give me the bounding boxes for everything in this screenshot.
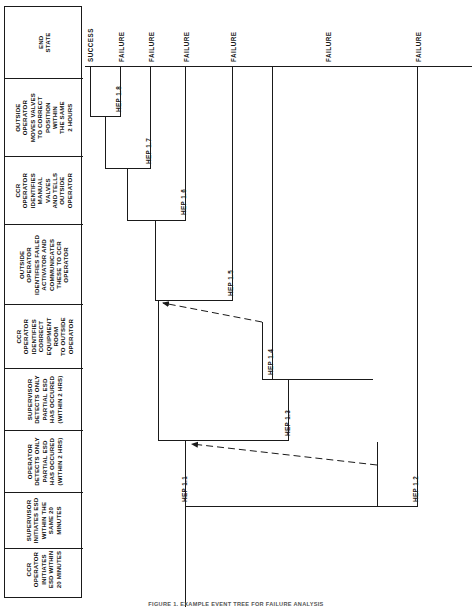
header-cell-outside-operator-identifies-failed-actuator: OUTSIDEOPERATORIDENTIFIES FAILEDACTIVATO… [5,225,83,305]
branch-node-hep-1-4-connector [262,379,273,380]
branch-node-hep-1-4 [262,379,373,380]
header-cell-outside-operator-moves-valves: OUTSIDEOPERATORMOVES VALVESTO CORRECTPOS… [5,79,83,157]
header-cell-ccr-operator-identifies-manual-valves: CCROPERATORIDENTIFIESMANUALVALVESAND TEL… [5,157,83,225]
header-column-strip: ENDSTATE OUTSIDEOPERATORMOVES VALVESTO C… [4,6,82,598]
header-cell-ccr-operator-identifies-correct-equipment-room-text: CCROPERATORIDENTIFIESCORRECTEQUIPMENTROO… [14,317,73,356]
branch-stem-hep-1-5 [158,300,159,440]
branch-node-hep-1-2 [377,506,418,507]
branch-line-hep-1-2-stub [377,442,378,506]
branch-stem-hep-1-7 [127,168,128,220]
header-cell-outside-operator-identifies-failed-actuator-text: OUTSIDEOPERATORIDENTIFIES FAILEDACTIVATO… [18,235,70,295]
branch-label-hep-1-8: HEP 1.8 [115,86,122,112]
end-state-label-failure-1: FAILURE [118,32,125,62]
transfer-arrow-hep-1-4-to-hep-1-5 [163,303,262,322]
branch-node-hep-1-3 [158,440,289,441]
header-cell-supervisor-initiates-esd-text: SUPERVISORINITIATES ESDWITHIN THESAME 20… [25,498,62,544]
header-column-strip-lower: CCROPERATORINITIATESESD WITHIN20 MINUTES [4,542,82,598]
branch-label-hep-1-2: HEP 1.2 [412,476,419,502]
header-cell-end-state-text: ENDSTATE [37,33,52,53]
branch-node-hep-1-5 [155,300,233,301]
branch-line-hep-1-4-failure [272,66,273,379]
transfer-arrow-hep-1-2-to-hep-1-3 [192,444,377,465]
header-cell-end-state: ENDSTATE [5,7,83,79]
branch-label-hep-1-3: HEP 1.3 [284,410,291,436]
end-state-label-failure-3: FAILURE [183,32,190,62]
header-cell-supervisor-initiates-esd: SUPERVISORINITIATES ESDWITHIN THESAME 20… [5,493,83,549]
event-tree-figure: ENDSTATE OUTSIDEOPERATORMOVES VALVESTO C… [0,0,472,607]
header-cell-ccr-operator-identifies-correct-equipment-room: CCROPERATORIDENTIFIESCORRECTEQUIPMENTROO… [5,305,83,369]
end-state-baseline [85,66,472,67]
header-cell-ccr-operator-initiates-esd-2-text: CCROPERATORINITIATESESD WITHIN20 MINUTES [25,551,62,589]
branch-line-success [90,66,91,116]
header-cell-ccr-operator-identifies-manual-valves-text: CCROPERATORIDENTIFIESMANUALVALVESAND TEL… [14,173,73,209]
end-state-label-failure-4: FAILURE [230,32,237,62]
branch-line-hep-1-4-stub [262,322,263,379]
branch-stem-hep-1-1 [185,440,186,607]
branch-node-hep-1-6 [127,220,186,221]
header-cell-supervisor-detects-only-partial-esd: SUPERVISORDETECTS ONLYPARTIAL ESDHAS OCC… [5,369,83,431]
end-state-label-failure-6: FAILURE [415,32,422,62]
end-state-label-failure-5: FAILURE [325,32,332,62]
branch-label-hep-1-4: HEP 1.4 [267,349,274,375]
header-cell-operator-detects-only-partial-esd-text: OPERATORDETECTS ONLYPARTIAL ESDHAS OCCUR… [25,437,62,486]
branch-label-hep-1-7: HEP 1.7 [145,138,152,164]
branch-line-hep-1-2-failure [417,66,418,506]
branch-label-hep-1-1: HEP 1.1 [181,476,188,502]
branch-label-hep-1-5: HEP 1.5 [227,270,234,296]
end-state-label-success: SUCCESS [87,28,94,62]
figure-caption: FIGURE 1. EXAMPLE EVENT TREE FOR FAILURE… [0,601,472,607]
header-cell-supervisor-detects-only-partial-esd-text: SUPERVISORDETECTS ONLYPARTIAL ESDHAS OCC… [25,375,62,424]
header-cell-outside-operator-moves-valves-text: OUTSIDEOPERATORMOVES VALVESTO CORRECTPOS… [14,93,73,142]
branch-node-hep-1-1 [185,506,378,507]
end-state-label-failure-2: FAILURE [148,32,155,62]
branch-node-hep-1-7 [105,168,151,169]
header-cell-operator-detects-only-partial-esd: OPERATORDETECTS ONLYPARTIAL ESDHAS OCCUR… [5,431,83,493]
branch-line-hep-1-5-failure [232,66,233,300]
branch-label-hep-1-6: HEP 1.6 [180,189,187,215]
branch-stem-hep-1-8 [105,116,106,168]
header-cell-ccr-operator-initiates-esd-2: CCROPERATORINITIATESESD WITHIN20 MINUTES [5,542,83,598]
branch-stem-hep-1-6 [155,220,156,300]
